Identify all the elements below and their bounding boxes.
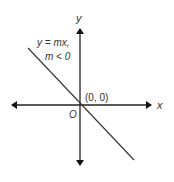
y-axis-bottom-arrow-icon — [76, 160, 84, 166]
line-y-equals-mx — [28, 48, 134, 160]
equation-label: y = mx, — [36, 37, 70, 48]
x-axis-label: x — [156, 99, 163, 111]
y-axis-top-arrow-icon — [76, 28, 84, 34]
x-axis-left-arrow-icon — [11, 101, 17, 109]
origin-coord-label: (0, 0) — [85, 92, 108, 103]
y-axis-label: y — [75, 12, 83, 24]
y-axis — [76, 28, 84, 166]
graph-diagram: y x (0, 0) O y = mx, m < 0 — [0, 0, 174, 182]
slope-condition-label: m < 0 — [45, 51, 71, 62]
origin-label: O — [69, 109, 77, 120]
x-axis-right-arrow-icon — [146, 101, 152, 109]
